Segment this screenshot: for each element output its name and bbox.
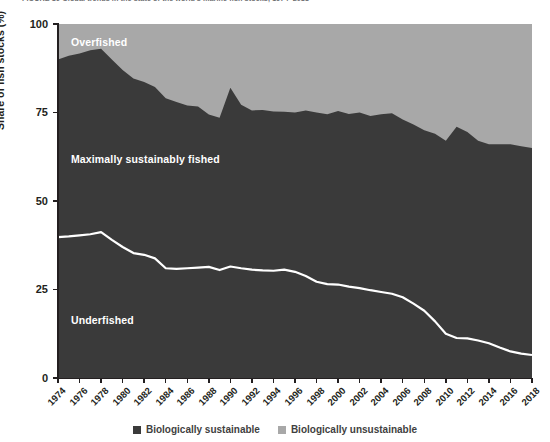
x-tick-mark (100, 378, 102, 383)
x-tick-mark (445, 378, 447, 383)
x-tick-mark (380, 378, 382, 383)
x-tick-mark (510, 378, 512, 383)
legend-item-biologically-unsustainable[interactable]: Biologically unsustainable (278, 424, 417, 435)
x-tick-mark (122, 378, 124, 383)
x-tick-mark (57, 378, 59, 383)
chart-legend: Biologically sustainableBiologically uns… (0, 424, 550, 435)
x-tick-mark (467, 378, 469, 383)
x-tick-mark (424, 378, 426, 383)
annotation-maximally-sustainably-fished: Maximally sustainably fished (71, 153, 220, 165)
y-tick-label: 100 (18, 19, 48, 30)
x-tick-mark (143, 378, 145, 383)
x-tick-mark (294, 378, 296, 383)
y-axis-title-text: Share of fish stocks (%) (0, 0, 6, 130)
legend-swatch-icon (278, 426, 286, 434)
annotation-underfished: Underfished (71, 314, 134, 326)
y-tick-label: 25 (18, 284, 48, 295)
x-tick-mark (488, 378, 490, 383)
x-tick-mark (165, 378, 167, 383)
x-tick-mark (230, 378, 232, 383)
figure-caption: FIGURE 19 Global trends in the state of … (0, 0, 550, 9)
y-tick-label: 75 (18, 107, 48, 118)
legend-label: Biologically unsustainable (291, 424, 417, 435)
legend-swatch-icon (133, 426, 141, 434)
y-tick-mark (53, 289, 57, 291)
x-tick-mark (187, 378, 189, 383)
x-tick-mark (531, 378, 533, 383)
legend-label: Biologically sustainable (146, 424, 260, 435)
x-tick-mark (79, 378, 81, 383)
y-tick-mark (53, 200, 57, 202)
y-tick-mark (53, 23, 57, 25)
x-tick-mark (316, 378, 318, 383)
y-axis-title: Share of fish stocks (%) (0, 0, 14, 130)
figure-container: FIGURE 19 Global trends in the state of … (0, 0, 550, 442)
x-tick-mark (208, 378, 210, 383)
x-tick-mark (337, 378, 339, 383)
x-tick-mark (359, 378, 361, 383)
y-tick-mark (53, 112, 57, 114)
y-tick-label: 50 (18, 196, 48, 207)
figure-caption-text: FIGURE 19 Global trends in the state of … (22, 0, 309, 3)
x-tick-mark (251, 378, 253, 383)
x-tick-mark (273, 378, 275, 383)
x-tick-mark (402, 378, 404, 383)
y-axis-line (57, 23, 59, 379)
annotation-overfished: Overfished (71, 36, 127, 48)
y-tick-label: 0 (18, 373, 48, 384)
legend-item-biologically-sustainable[interactable]: Biologically sustainable (133, 424, 260, 435)
